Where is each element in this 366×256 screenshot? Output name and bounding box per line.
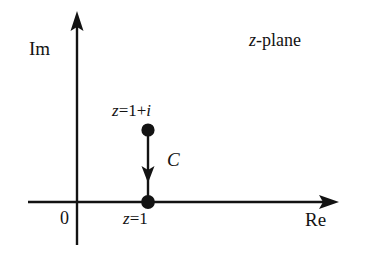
point-label-z-1: z=1 xyxy=(123,210,148,227)
real-axis-label: Re xyxy=(305,210,326,229)
point-label-z-1-plus-i-rest: =1+ xyxy=(119,101,147,120)
point-label-z-1-variable: z xyxy=(123,209,130,228)
point-marker-z-1 xyxy=(141,195,155,209)
imaginary-axis-label: Im xyxy=(29,39,50,58)
z-plane-label-suffix: -plane xyxy=(256,30,301,50)
point-label-z-1-plus-i: z=1+i xyxy=(112,102,151,119)
origin-label: 0 xyxy=(60,209,69,227)
z-plane-label-variable: z xyxy=(249,30,256,50)
point-marker-z-1-plus-i xyxy=(141,123,154,136)
point-label-z-1-rest: =1 xyxy=(130,209,148,228)
z-plane-label: z-plane xyxy=(249,31,301,49)
contour-label: C xyxy=(167,150,180,169)
point-label-z-1-plus-i-variable: z xyxy=(112,101,119,120)
point-label-z-1-plus-i-imaginary-unit: i xyxy=(146,101,151,120)
